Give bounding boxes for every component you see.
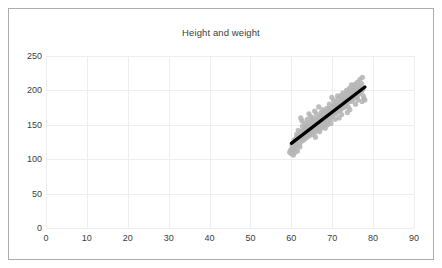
chart-container: Height and weight 050100150200250 010203…	[8, 8, 434, 260]
y-axis-tick-label: 100	[8, 154, 42, 164]
y-axis-tick-label: 250	[8, 51, 42, 61]
x-axis-tick-label: 30	[164, 233, 174, 243]
scatter-point	[335, 93, 340, 98]
scatter-point	[337, 115, 342, 120]
plot-area	[46, 56, 414, 228]
scatter-point	[325, 122, 330, 127]
gridline-vertical	[414, 56, 415, 228]
x-axis-tick-label: 60	[286, 233, 296, 243]
gridline-horizontal	[46, 228, 414, 229]
x-axis-tick-label: 10	[82, 233, 92, 243]
y-axis-tick-label: 150	[8, 120, 42, 130]
trendline	[291, 87, 365, 143]
x-axis-tick-label: 0	[43, 233, 48, 243]
y-axis-tick-labels: 050100150200250	[9, 56, 42, 228]
scatter-point	[317, 129, 322, 134]
scatter-point	[360, 75, 365, 80]
x-axis-tick-label: 20	[123, 233, 133, 243]
scatter-point	[306, 111, 311, 116]
x-axis-tick-label: 40	[205, 233, 215, 243]
chart-title: Height and weight	[9, 27, 433, 38]
scatter-point	[319, 110, 324, 115]
scatter-point	[359, 99, 364, 104]
scatter-point	[298, 115, 303, 120]
scatter-point	[351, 86, 356, 91]
x-axis-tick-label: 70	[327, 233, 337, 243]
scatter-point	[346, 104, 351, 109]
scatter-point	[359, 81, 364, 86]
y-axis-tick-label: 200	[8, 85, 42, 95]
scatter-point	[316, 104, 321, 109]
scatter-point	[297, 144, 302, 149]
scatter-point	[314, 111, 319, 116]
scatter-point	[345, 110, 350, 115]
scatter-point	[327, 102, 332, 107]
x-axis-tick-label: 80	[368, 233, 378, 243]
x-axis-tick-labels: 0102030405060708090	[46, 233, 414, 247]
scatter-point	[310, 115, 315, 120]
scatter-point	[329, 95, 334, 100]
scatter-point	[313, 135, 318, 140]
y-axis-tick-label: 50	[8, 189, 42, 199]
x-axis-tick-label: 50	[245, 233, 255, 243]
x-axis-tick-label: 90	[409, 233, 419, 243]
y-axis-tick-label: 0	[8, 223, 42, 233]
scatter-plot-svg	[46, 56, 414, 228]
